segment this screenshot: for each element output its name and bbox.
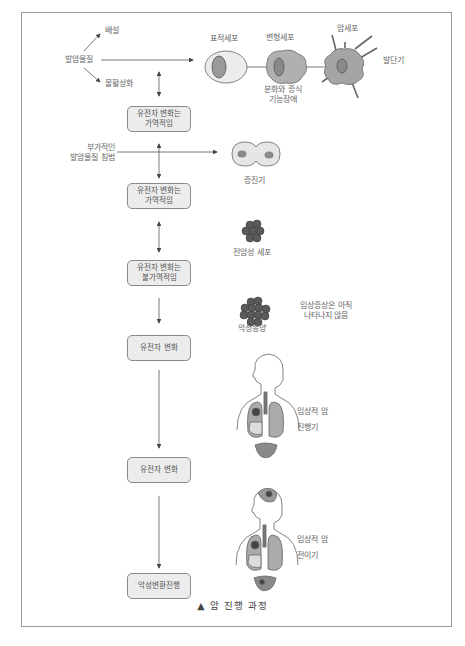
stage-box-4: 유전자 변화 bbox=[127, 335, 191, 361]
diagram-graphics bbox=[0, 0, 465, 646]
precancerous-cluster-icon bbox=[242, 220, 264, 242]
excretion-label: 배설 bbox=[105, 26, 119, 36]
stage-box-2: 유전자 변화는가역적임 bbox=[127, 183, 191, 209]
figure-caption: ▲ 암 진행 과정 bbox=[0, 598, 465, 612]
malignant-tumor-icon bbox=[240, 297, 270, 326]
dividing-cell-icon bbox=[232, 142, 280, 166]
caption-text: 암 진행 과정 bbox=[210, 600, 268, 611]
stage-box-6: 악성변환진행 bbox=[127, 573, 191, 599]
stage-box-5: 유전자 변화 bbox=[127, 457, 191, 483]
malignant-tumor-label: 악성종양 bbox=[238, 324, 266, 334]
target-cell-icon bbox=[205, 51, 247, 83]
triangle-marker-icon: ▲ bbox=[197, 600, 205, 611]
cancer-cell-label: 암세포 bbox=[337, 24, 358, 34]
precancerous-label: 전암성 세포 bbox=[233, 248, 271, 258]
metastasis-label: 임상적 암 전이기 bbox=[297, 532, 328, 564]
stage-box-3: 유전자 변화는불가역적임 bbox=[127, 260, 191, 286]
promotion-label: 증진기 bbox=[244, 176, 265, 186]
transformed-cell-icon bbox=[267, 50, 307, 83]
body-progression-icon bbox=[237, 354, 299, 458]
target-cell-label: 표적세포 bbox=[210, 34, 238, 44]
carcinogen-label: 발암물질 bbox=[65, 55, 93, 65]
additional-carcinogen-label: 부가적인 발암물질 침범 bbox=[60, 143, 115, 163]
inactivation-label: 불활성화 bbox=[105, 79, 133, 89]
arrow-to-inactivation bbox=[84, 68, 100, 82]
initiation-label: 발단기 bbox=[383, 56, 404, 66]
no-symptoms-label: 임상증상은 아직 나타나지 않음 bbox=[290, 301, 362, 321]
body-metastasis-icon bbox=[236, 489, 298, 591]
stage-box-1: 유전자 변화는가역적임 bbox=[127, 106, 191, 132]
arrow-to-excretion bbox=[84, 34, 100, 51]
progression-label: 임상적 암 진행기 bbox=[297, 404, 328, 436]
transformed-cell-label: 변형세포 bbox=[266, 33, 294, 43]
dysfunction-label: 분화와 증식 기능장애 bbox=[255, 85, 311, 105]
